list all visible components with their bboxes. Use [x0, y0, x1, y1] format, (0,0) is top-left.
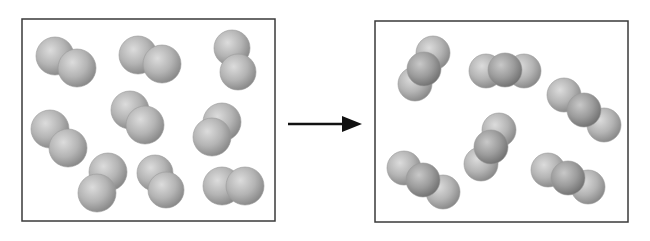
atom-sphere	[78, 174, 116, 212]
atom-sphere	[49, 129, 87, 167]
atom-sphere	[567, 93, 601, 127]
reaction-diagram	[0, 0, 650, 241]
atom-sphere	[488, 53, 522, 87]
atom-sphere	[407, 52, 441, 86]
atom-sphere	[406, 163, 440, 197]
atom-sphere	[193, 118, 231, 156]
diatomic-molecule	[203, 167, 264, 205]
atom-sphere	[126, 106, 164, 144]
atom-sphere	[148, 172, 184, 208]
atom-sphere	[143, 45, 181, 83]
atom-sphere	[58, 49, 96, 87]
atom-sphere	[220, 54, 256, 90]
atom-sphere	[551, 161, 585, 195]
reaction-arrow-icon	[288, 116, 362, 132]
atom-sphere	[474, 130, 508, 164]
triatomic-molecule	[469, 53, 541, 88]
atom-sphere	[226, 167, 264, 205]
